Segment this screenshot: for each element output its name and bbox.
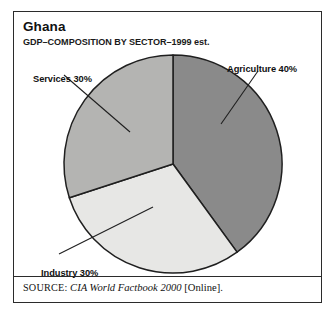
pie-label-agriculture: Agriculture 40% (227, 64, 297, 74)
source-note: SOURCE: CIA World Factbook 2000 [Online]… (23, 282, 223, 293)
source-title: CIA World Factbook 2000 (70, 282, 182, 293)
source-label: SOURCE: (23, 282, 67, 293)
figure-frame: Ghana GDP–COMPOSITION BY SECTOR–1999 est… (13, 11, 322, 303)
source-divider (14, 276, 321, 277)
pie-label-services: Services 30% (33, 74, 92, 84)
source-suffix: [Online]. (184, 282, 223, 293)
pie-chart-plot-area (14, 12, 321, 302)
